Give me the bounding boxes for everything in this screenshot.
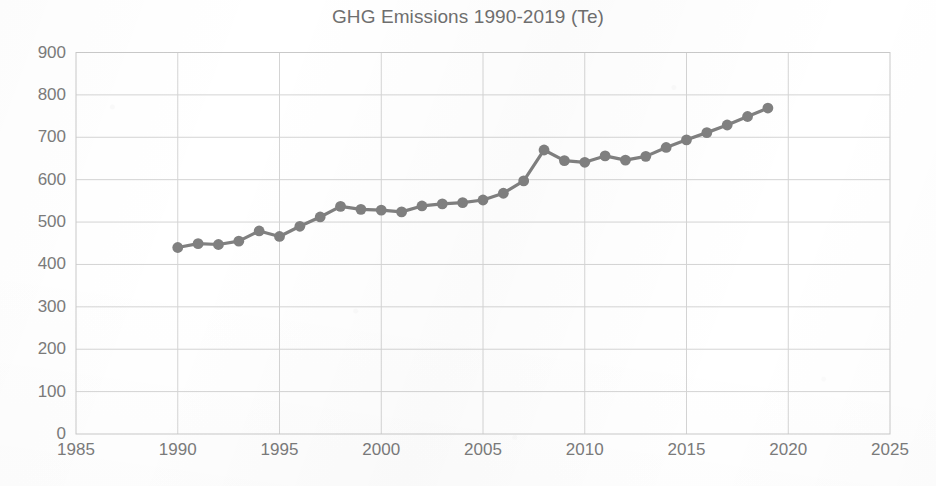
data-point-marker	[681, 134, 692, 145]
data-point-marker	[722, 120, 733, 131]
data-point-marker	[620, 155, 631, 166]
y-axis-tick-label: 800	[0, 85, 66, 105]
data-point-marker	[457, 197, 468, 208]
data-point-marker	[335, 201, 346, 212]
y-axis-tick-label: 700	[0, 127, 66, 147]
data-point-marker	[193, 238, 204, 249]
data-point-marker	[294, 221, 305, 232]
chart-container: GHG Emissions 1990-2019 (Te) 90080070060…	[0, 0, 936, 486]
x-axis-tick-label: 1990	[159, 440, 197, 460]
data-point-marker	[376, 205, 387, 216]
data-point-marker	[559, 155, 570, 166]
data-point-marker	[701, 127, 712, 138]
data-point-marker	[763, 103, 774, 114]
x-axis-tick-label: 2025	[871, 440, 909, 460]
data-point-marker	[478, 195, 489, 206]
data-point-marker	[233, 236, 244, 247]
x-axis-tick-label: 2010	[566, 440, 604, 460]
x-axis-tick-label: 2020	[769, 440, 807, 460]
data-point-marker	[661, 142, 672, 153]
data-point-marker	[417, 201, 428, 212]
y-axis-tick-label: 400	[0, 254, 66, 274]
data-point-marker	[315, 212, 326, 223]
y-axis-tick-label: 500	[0, 212, 66, 232]
y-axis-tick-label: 200	[0, 339, 66, 359]
data-point-marker	[396, 206, 407, 217]
x-axis-tick-label: 1995	[261, 440, 299, 460]
data-point-marker	[356, 204, 367, 215]
y-axis-tick-label: 300	[0, 297, 66, 317]
data-point-marker	[579, 157, 590, 168]
data-point-marker	[742, 111, 753, 122]
y-axis-tick-label: 600	[0, 170, 66, 190]
data-point-marker	[254, 226, 265, 237]
x-axis-tick-label: 2015	[668, 440, 706, 460]
data-point-marker	[172, 242, 183, 253]
y-axis-tick-label: 100	[0, 382, 66, 402]
data-point-marker	[518, 176, 529, 187]
x-axis-tick-label: 2000	[362, 440, 400, 460]
x-axis-tick-label: 2005	[464, 440, 502, 460]
data-point-marker	[274, 231, 285, 242]
data-point-marker	[498, 188, 509, 199]
data-point-marker	[600, 151, 611, 162]
chart-plot-area	[0, 0, 936, 486]
series-line	[178, 108, 768, 247]
data-point-marker	[640, 151, 651, 162]
data-point-marker	[437, 198, 448, 209]
x-axis-tick-label: 1985	[57, 440, 95, 460]
data-point-markers	[172, 103, 773, 253]
data-point-marker	[539, 145, 550, 156]
data-point-marker	[213, 239, 224, 250]
data-series-line	[178, 108, 768, 247]
y-axis-tick-label: 900	[0, 43, 66, 63]
